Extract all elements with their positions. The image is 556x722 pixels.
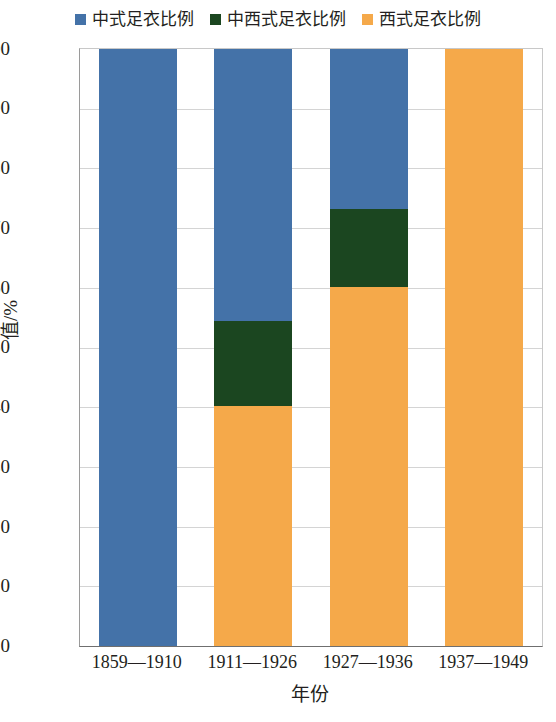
y-tick-100: 100 <box>0 39 10 58</box>
bar-segment-western-style <box>330 287 408 646</box>
y-tick-20: 20 <box>0 517 10 536</box>
legend-item-mixed-style: 中西式足衣比例 <box>210 10 346 29</box>
y-tick-80: 80 <box>0 158 10 177</box>
chart-legend: 中式足衣比例 中西式足衣比例 西式足衣比例 <box>0 6 556 32</box>
bar-group-1927-1936 <box>311 49 427 646</box>
legend-label-mixed-style: 中西式足衣比例 <box>227 10 346 29</box>
bar-group-1937-1949 <box>427 49 543 646</box>
bar-series-container <box>80 49 542 646</box>
legend-swatch-western-style <box>362 14 373 25</box>
legend-label-western-style: 西式足衣比例 <box>379 10 481 29</box>
bar-segment-western-style <box>445 49 523 646</box>
legend-item-western-style: 西式足衣比例 <box>362 10 481 29</box>
bar-segment-western-style <box>214 406 292 646</box>
y-tick-10: 10 <box>0 576 10 595</box>
legend-swatch-chinese-style <box>75 14 86 25</box>
y-tick-0: 0 <box>0 636 10 655</box>
bar-stack-1859-1910 <box>99 49 177 646</box>
x-tick-1911-1926: 1911—1926 <box>195 651 311 673</box>
bar-group-1911-1926 <box>196 49 312 646</box>
bar-stack-1927-1936 <box>330 49 408 646</box>
y-tick-70: 70 <box>0 218 10 237</box>
y-tick-90: 90 <box>0 98 10 117</box>
x-tick-1927-1936: 1927—1936 <box>310 651 426 673</box>
x-axis-title: 年份 <box>79 684 541 706</box>
x-tick-1937-1949: 1937—1949 <box>426 651 542 673</box>
bar-segment-chinese-style <box>99 49 177 646</box>
y-tick-30: 30 <box>0 457 10 476</box>
bar-segment-mixed-style <box>214 321 292 406</box>
plot-area <box>79 48 543 647</box>
x-axis-tick-labels: 1859—1910 1911—1926 1927—1936 1937—1949 <box>79 651 541 673</box>
bar-group-1859-1910 <box>80 49 196 646</box>
y-axis-title: 值/% <box>1 280 21 360</box>
legend-item-chinese-style: 中式足衣比例 <box>75 10 194 29</box>
x-tick-1859-1910: 1859—1910 <box>79 651 195 673</box>
legend-swatch-mixed-style <box>210 14 221 25</box>
bar-segment-mixed-style <box>330 209 408 287</box>
bar-segment-chinese-style <box>214 49 292 321</box>
bar-segment-chinese-style <box>330 49 408 209</box>
bar-stack-1911-1926 <box>214 49 292 646</box>
bar-stack-1937-1949 <box>445 49 523 646</box>
y-tick-40: 40 <box>0 397 10 416</box>
legend-label-chinese-style: 中式足衣比例 <box>92 10 194 29</box>
